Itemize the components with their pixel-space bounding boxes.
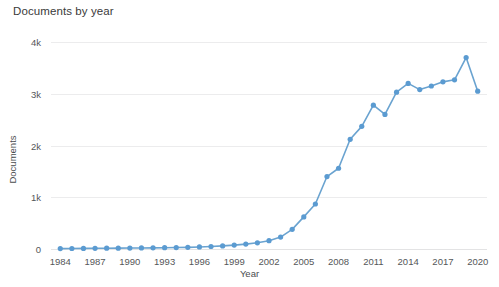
series-documents xyxy=(51,42,487,249)
data-point[interactable] xyxy=(278,235,283,240)
x-tick-label-2008: 2008 xyxy=(328,256,349,267)
x-tick-label-1990: 1990 xyxy=(119,256,140,267)
y-tick-label-3k: 3k xyxy=(31,88,41,99)
x-tick-label-1996: 1996 xyxy=(189,256,210,267)
x-tick-label-2014: 2014 xyxy=(398,256,419,267)
series-markers xyxy=(58,55,481,251)
data-point[interactable] xyxy=(174,245,179,250)
x-tick-label-2020: 2020 xyxy=(467,256,488,267)
y-tick-label-0: 0 xyxy=(36,244,41,255)
data-point[interactable] xyxy=(58,246,63,251)
data-point[interactable] xyxy=(429,83,434,88)
data-point[interactable] xyxy=(69,246,74,251)
data-point[interactable] xyxy=(301,214,306,219)
data-point[interactable] xyxy=(406,81,411,86)
y-axis: Documents 01k2k3k4k xyxy=(0,42,46,249)
data-point[interactable] xyxy=(417,87,422,92)
data-point[interactable] xyxy=(243,241,248,246)
data-point[interactable] xyxy=(81,246,86,251)
data-point[interactable] xyxy=(139,245,144,250)
data-point[interactable] xyxy=(452,77,457,82)
data-point[interactable] xyxy=(197,244,202,249)
data-point[interactable] xyxy=(104,246,109,251)
data-point[interactable] xyxy=(313,201,318,206)
data-point[interactable] xyxy=(185,245,190,250)
data-point[interactable] xyxy=(382,112,387,117)
data-point[interactable] xyxy=(336,166,341,171)
x-tick-label-2017: 2017 xyxy=(432,256,453,267)
x-tick-label-2002: 2002 xyxy=(258,256,279,267)
data-point[interactable] xyxy=(394,90,399,95)
data-point[interactable] xyxy=(266,238,271,243)
data-point[interactable] xyxy=(359,124,364,129)
x-tick-label-2005: 2005 xyxy=(293,256,314,267)
plot-area xyxy=(51,42,487,249)
data-point[interactable] xyxy=(324,174,329,179)
data-point[interactable] xyxy=(92,246,97,251)
data-point[interactable] xyxy=(150,245,155,250)
series-line xyxy=(60,58,477,249)
y-axis-title: Documents xyxy=(7,110,18,210)
x-tick-label-2011: 2011 xyxy=(363,256,383,267)
x-axis-title: Year xyxy=(0,268,499,279)
data-point[interactable] xyxy=(127,245,132,250)
data-point[interactable] xyxy=(220,243,225,248)
x-tick-label-1987: 1987 xyxy=(84,256,105,267)
data-point[interactable] xyxy=(208,244,213,249)
chart-title: Documents by year xyxy=(13,5,114,17)
data-point[interactable] xyxy=(162,245,167,250)
data-point[interactable] xyxy=(464,55,469,60)
data-point[interactable] xyxy=(290,227,295,232)
data-point[interactable] xyxy=(116,246,121,251)
documents-by-year-chart: Documents by year Documents 01k2k3k4k 19… xyxy=(0,0,499,287)
data-point[interactable] xyxy=(255,240,260,245)
data-point[interactable] xyxy=(371,103,376,108)
data-point[interactable] xyxy=(440,79,445,84)
data-point[interactable] xyxy=(348,137,353,142)
data-point[interactable] xyxy=(232,243,237,248)
y-tick-label-1k: 1k xyxy=(31,192,41,203)
data-point[interactable] xyxy=(475,89,480,94)
x-tick-label-1999: 1999 xyxy=(224,256,245,267)
y-tick-label-4k: 4k xyxy=(31,37,41,48)
y-tick-label-2k: 2k xyxy=(31,140,41,151)
x-tick-label-1984: 1984 xyxy=(50,256,71,267)
x-tick-label-1993: 1993 xyxy=(154,256,175,267)
